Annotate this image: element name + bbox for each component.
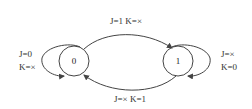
self-loop-1-j-label: J=× — [221, 49, 235, 59]
self-loop-0-k-label: K=× — [19, 62, 36, 72]
self-loop-1-k-label: K=0 — [221, 62, 238, 72]
state-1-label: 1 — [176, 56, 181, 66]
transition-0-to-1-label: J=1 K=× — [110, 16, 142, 26]
transition-0-to-1-arrow — [84, 35, 172, 49]
state-diagram: 0 1 J=0 K=× J=× K=0 J=1 K=× J=× K=1 — [0, 0, 252, 109]
self-loop-0-j-label: J=0 — [19, 49, 33, 59]
state-0-label: 0 — [72, 56, 77, 66]
transition-1-to-0-arrow — [84, 75, 176, 90]
state-0: 0 — [59, 46, 89, 76]
transition-1-to-0-label: J=× K=1 — [114, 94, 146, 104]
state-1: 1 — [163, 46, 193, 76]
